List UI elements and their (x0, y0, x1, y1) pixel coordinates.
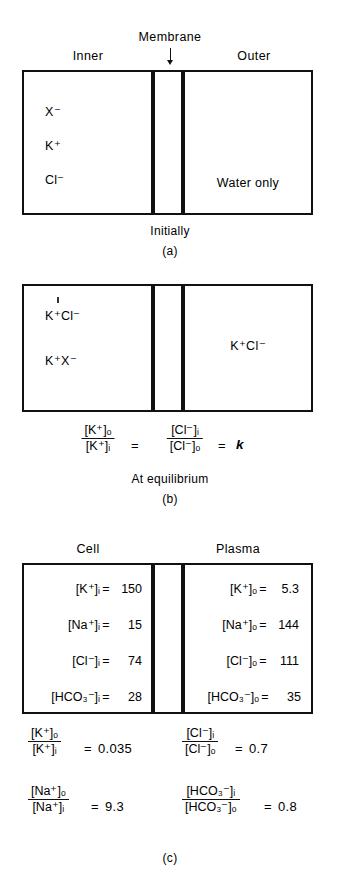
table-row: [Na⁺]ᵢ=15 (48, 617, 142, 632)
ratio-cl-numerator: [Cl⁻]ᵢ (182, 727, 218, 742)
plasma-row-3-value: 35 (271, 690, 301, 704)
cell-row-2-label: [Cl⁻]ᵢ (48, 653, 100, 668)
panel-b-inner-kx: K⁺X⁻ (45, 355, 77, 368)
table-row: [HCO₃⁻]ᵢ=28 (30, 689, 142, 704)
cell-row-1-value: 15 (112, 618, 142, 632)
cell-row-3-label: [HCO₃⁻]ᵢ (30, 689, 100, 704)
ratio-hco3: [HCO₃⁻]ᵢ [HCO₃⁻]ₒ (182, 785, 240, 814)
plasma-row-0-label: [K⁺]ₒ (205, 581, 257, 596)
ratio-cl: [Cl⁻]ᵢ [Cl⁻]ₒ (182, 727, 218, 756)
ratio-cl-denominator: [Cl⁻]ₒ (182, 742, 218, 756)
panel-b-inner-kcl: K⁺Cl⁻ (45, 310, 81, 323)
panel-b-inner-chamber (22, 284, 153, 412)
ratio-k-value: 0.035 (98, 741, 132, 756)
plasma-row-3-label: [HCO₃⁻]ₒ (189, 689, 259, 704)
cell-row-1-label: [Na⁺]ᵢ (48, 617, 100, 632)
ratio-k-denominator: [K⁺]ᵢ (28, 742, 61, 756)
inner-label: Inner (73, 50, 104, 63)
table-row: [K⁺]ᵢ=150 (48, 581, 142, 596)
panel-b-equals-1: = (131, 438, 139, 453)
panel-b-ratio-k-denominator: [K⁺]ᵢ (81, 439, 114, 453)
table-row: [Cl⁻]ᵢ=74 (48, 653, 142, 668)
cell-row-2-value: 74 (112, 654, 142, 668)
plasma-row-2-label: [Cl⁻]ₒ (205, 653, 257, 668)
panel-b-stray-mark (57, 297, 59, 303)
panel-c-header-plasma: Plasma (216, 543, 260, 556)
donnan-equilibrium-figure: Membrane Inner Outer X⁻ K⁺ Cl⁻ Water onl… (0, 0, 341, 883)
ratio-hco3-equals: = (264, 799, 272, 814)
table-row: [HCO₃⁻]ₒ=35 (189, 689, 301, 704)
ratio-hco3-numerator: [HCO₃⁻]ᵢ (182, 785, 240, 800)
panel-b-ratio-cl-numerator: [Cl⁻]ᵢ (167, 424, 203, 439)
plasma-row-0-eq: = (257, 582, 269, 596)
ratio-na-equals: = (91, 799, 99, 814)
panel-a-membrane-gap (155, 70, 181, 215)
ratio-na: [Na⁺]ₒ [Na⁺]ᵢ (28, 785, 69, 814)
membrane-label: Membrane (139, 31, 202, 44)
ratio-hco3-value: 0.8 (278, 799, 297, 814)
ratio-k: [K⁺]ₒ [K⁺]ᵢ (28, 727, 61, 756)
ratio-k-equals: = (84, 741, 92, 756)
membrane-arrow-head (167, 60, 173, 65)
table-row: [K⁺]ₒ=5.3 (205, 581, 299, 596)
outer-label: Outer (237, 50, 270, 63)
panel-a-species-cl: Cl⁻ (45, 174, 65, 187)
ratio-na-value: 9.3 (105, 799, 124, 814)
ratio-k-numerator: [K⁺]ₒ (28, 727, 61, 742)
ratio-hco3-denominator: [HCO₃⁻]ₒ (182, 800, 240, 814)
panel-a-species-x: X⁻ (45, 106, 61, 119)
cell-row-0-eq: = (100, 582, 112, 596)
panel-b-ratio-k-numerator: [K⁺]ₒ (81, 424, 114, 439)
table-row: [Cl⁻]ₒ=111 (205, 653, 299, 668)
panel-a-water-only-label: Water only (217, 177, 279, 190)
panel-b-ratio-k: [K⁺]ₒ [K⁺]ᵢ (81, 424, 114, 453)
cell-row-3-value: 28 (112, 690, 142, 704)
table-row: [Na⁺]ₒ=144 (205, 617, 299, 632)
ratio-na-numerator: [Na⁺]ₒ (28, 785, 69, 800)
plasma-row-1-eq: = (257, 618, 269, 632)
ratio-cl-value: 0.7 (249, 741, 268, 756)
cell-row-3-eq: = (100, 690, 112, 704)
panel-a-state-caption: Initially (150, 225, 189, 237)
cell-row-0-value: 150 (112, 582, 142, 596)
panel-a-caption: (a) (162, 245, 178, 257)
panel-b-ratio-cl: [Cl⁻]ᵢ [Cl⁻]ₒ (167, 424, 203, 453)
panel-a-inner-chamber (22, 70, 153, 215)
ratio-cl-equals: = (235, 741, 243, 756)
panel-a-species-k: K⁺ (45, 140, 61, 153)
panel-b-membrane-gap (155, 284, 181, 412)
cell-row-0-label: [K⁺]ᵢ (48, 581, 100, 596)
panel-b-caption: (b) (162, 493, 178, 505)
plasma-row-1-label: [Na⁺]ₒ (205, 617, 257, 632)
panel-b-ratio-cl-denominator: [Cl⁻]ₒ (167, 439, 203, 453)
plasma-row-1-value: 144 (269, 618, 299, 632)
plasma-row-2-value: 111 (269, 654, 299, 668)
panel-b-outer-kcl: K⁺Cl⁻ (230, 340, 266, 353)
panel-c-header-cell: Cell (76, 543, 99, 556)
panel-b-equals-2: = (218, 438, 226, 453)
panel-b-state-caption: At equilibrium (132, 473, 209, 485)
plasma-row-3-eq: = (259, 690, 271, 704)
plasma-row-0-value: 5.3 (269, 582, 299, 596)
panel-c-membrane-gap (155, 563, 181, 714)
panel-c-caption: (c) (163, 852, 178, 864)
cell-row-1-eq: = (100, 618, 112, 632)
plasma-row-2-eq: = (257, 654, 269, 668)
ratio-na-denominator: [Na⁺]ᵢ (28, 800, 69, 814)
cell-row-2-eq: = (100, 654, 112, 668)
panel-a-outer-chamber (183, 70, 313, 215)
panel-b-constant-k: k (236, 437, 244, 452)
